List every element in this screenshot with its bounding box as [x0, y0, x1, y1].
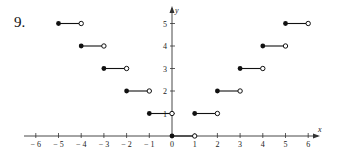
open-endpoint-icon	[283, 44, 287, 48]
open-endpoint-icon	[79, 21, 83, 25]
x-tick-label: 6	[306, 140, 310, 149]
x-tick-label: − 3	[99, 140, 110, 149]
y-tick-label: 3	[163, 65, 167, 74]
x-tick-label: 5	[284, 140, 288, 149]
open-endpoint-icon	[306, 21, 310, 25]
open-endpoint-icon	[147, 89, 151, 93]
x-tick-label: − 5	[53, 140, 64, 149]
closed-endpoint-icon	[147, 111, 152, 116]
x-tick-label: − 4	[76, 140, 87, 149]
closed-endpoint-icon	[283, 21, 288, 26]
x-tick-label: − 2	[121, 140, 132, 149]
closed-endpoint-icon	[192, 111, 197, 116]
closed-endpoint-icon	[79, 44, 84, 49]
x-tick-label: 1	[193, 140, 197, 149]
open-endpoint-icon	[215, 111, 219, 115]
x-tick-label: 4	[261, 140, 265, 149]
x-axis-label: x	[317, 125, 322, 134]
closed-endpoint-icon	[124, 89, 129, 94]
open-endpoint-icon	[238, 89, 242, 93]
x-tick-label: 2	[215, 140, 219, 149]
step-segments	[56, 21, 310, 138]
x-tick-label: 0	[170, 140, 174, 149]
open-endpoint-icon	[102, 44, 106, 48]
closed-endpoint-icon	[260, 44, 265, 49]
axis-ticks: − 6− 5− 4− 3− 2− 1012345612345	[31, 20, 311, 150]
closed-endpoint-icon	[215, 89, 220, 94]
x-tick-label: 3	[238, 140, 242, 149]
y-tick-label: 2	[163, 87, 167, 96]
open-endpoint-icon	[124, 66, 128, 70]
closed-endpoint-icon	[238, 66, 243, 71]
y-tick-label: 4	[163, 42, 167, 51]
closed-endpoint-icon	[56, 21, 61, 26]
axes: xy	[24, 6, 322, 139]
closed-endpoint-icon	[170, 134, 175, 139]
step-function-chart: xy − 6− 5− 4− 3− 2− 1012345612345	[0, 0, 338, 150]
open-endpoint-icon	[193, 134, 197, 138]
x-tick-label: − 1	[144, 140, 155, 149]
open-endpoint-icon	[261, 66, 265, 70]
x-axis-arrow-icon	[313, 134, 320, 139]
open-endpoint-icon	[170, 111, 174, 115]
x-tick-label: − 6	[31, 140, 42, 149]
y-axis-label: y	[174, 6, 179, 15]
y-axis-arrow-icon	[170, 6, 175, 13]
closed-endpoint-icon	[102, 66, 107, 71]
y-tick-label: 5	[163, 20, 167, 29]
